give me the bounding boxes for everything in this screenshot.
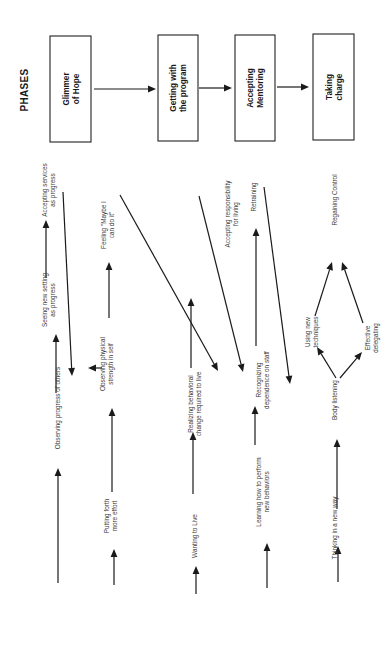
node-observing-progress: Observing progress of others bbox=[54, 367, 62, 449]
node-putting-forth: Putting forthmore effort bbox=[103, 498, 118, 533]
arrowhead-icon bbox=[188, 298, 195, 306]
connector-line bbox=[264, 187, 289, 376]
arrow-observing-to-feeling bbox=[106, 262, 113, 318]
phase-box-frame bbox=[50, 36, 91, 142]
node-using-techniques: Using newtechniques bbox=[304, 317, 320, 348]
arrow-putting-to-observing bbox=[109, 408, 116, 492]
arrow-start-row2 bbox=[111, 549, 118, 585]
connector-line bbox=[340, 358, 357, 378]
node-feeling-maybe: Feeling "Maybe Ican do it" bbox=[100, 201, 115, 249]
node-regaining-control: Regaining Control bbox=[331, 174, 339, 225]
arrow-accepting-to-taking bbox=[277, 84, 309, 91]
connector-line bbox=[120, 195, 214, 364]
arrowhead-icon bbox=[109, 408, 116, 416]
phase-box-accepting: AcceptingMentoring bbox=[235, 35, 275, 141]
arrow-learning-to-recognizing bbox=[252, 406, 259, 445]
node-body-listening: Body listening bbox=[331, 380, 339, 420]
phases-title: PHASES bbox=[19, 69, 30, 112]
phase-box-getting: Getting withthe program bbox=[158, 35, 198, 141]
node-accepting-services: Accepting servicesas progress bbox=[41, 163, 57, 216]
node-seeing-setting: Seeing new settingas progress bbox=[41, 273, 57, 327]
phase-label: Glimmerof Hope bbox=[62, 72, 81, 106]
arrow-getting-to-accepting bbox=[199, 85, 232, 92]
arrowhead-icon bbox=[88, 365, 96, 372]
node-learning-perform: Learning how to performnew behaviors bbox=[255, 457, 270, 526]
phase-label: AcceptingMentoring bbox=[246, 68, 265, 108]
phase-box-taking: Takingcharge bbox=[313, 34, 354, 140]
arrowhead-icon bbox=[43, 220, 50, 228]
phase-label: Getting withthe program bbox=[169, 64, 188, 112]
arrowhead-icon bbox=[252, 406, 259, 414]
phase-box-frame bbox=[158, 35, 198, 141]
phase-box-frame bbox=[313, 34, 354, 140]
arrow-body-to-delegating bbox=[340, 352, 362, 378]
node-observing-strength: Observing physicalstrength in self bbox=[99, 337, 115, 391]
arrow-using-to-regaining bbox=[315, 262, 333, 316]
node-thinking-new: Thinking in a new way bbox=[331, 496, 339, 560]
node-wanting-live: Wanting to Live bbox=[191, 514, 199, 558]
connector-line bbox=[63, 192, 72, 368]
arrow-seeing-to-accepting-services bbox=[43, 220, 50, 278]
arrowhead-icon bbox=[193, 566, 200, 574]
node-realizing-change: Realizing behavioralchange required to l… bbox=[187, 371, 203, 436]
node-accepting-responsibility: Accepting responsibilityfor living bbox=[224, 180, 240, 248]
arrowhead-icon bbox=[106, 262, 113, 270]
arrowhead-icon bbox=[148, 86, 156, 93]
arrowhead-icon bbox=[53, 334, 60, 342]
arrow-start-row3 bbox=[193, 566, 200, 594]
phase-label: Takingcharge bbox=[325, 73, 344, 100]
arrow-start-row1 bbox=[55, 468, 62, 583]
phase-box-glimmer: Glimmerof Hope bbox=[50, 36, 91, 142]
arrowhead-icon bbox=[111, 549, 118, 557]
connector-line bbox=[321, 354, 336, 378]
arrow-feeling-down bbox=[120, 195, 218, 371]
phase-box-frame bbox=[235, 35, 275, 141]
arrowhead-icon bbox=[238, 363, 245, 372]
arrowhead-icon bbox=[286, 376, 293, 384]
node-recognizing-dependence: Recognizingdependence on staff bbox=[255, 351, 271, 409]
arrow-wanting-to-realizing bbox=[190, 432, 197, 494]
arrowhead-icon bbox=[264, 543, 271, 551]
node-effective-delegating: Effectivedelegating bbox=[364, 323, 380, 353]
connector-line bbox=[345, 270, 363, 323]
arrow-body-to-using bbox=[317, 347, 336, 378]
arrowhead-icon bbox=[341, 262, 347, 271]
phases-diagram: Glimmerof HopeGetting withthe programAcc… bbox=[0, 0, 389, 660]
arrowhead-icon bbox=[224, 85, 232, 92]
connector-line bbox=[315, 270, 330, 316]
arrowhead-icon bbox=[55, 468, 62, 476]
arrow-accepting-services-down bbox=[63, 192, 75, 376]
arrowhead-icon bbox=[334, 439, 341, 447]
arrow-realizing-to-responsibility bbox=[188, 298, 195, 368]
arrowhead-icon bbox=[68, 368, 75, 376]
arrowhead-icon bbox=[253, 228, 260, 236]
arrow-recognizing-to-retraining bbox=[253, 228, 260, 346]
arrow-start-row4 bbox=[264, 543, 271, 588]
arrow-delegating-to-regaining bbox=[341, 262, 363, 323]
arrow-glimmer-to-getting bbox=[94, 86, 156, 93]
arrowhead-icon bbox=[326, 262, 332, 271]
node-retraining: Retraining bbox=[250, 182, 258, 212]
node-labels: Observing progress of othersSeeing new s… bbox=[41, 163, 380, 559]
arrowhead-icon bbox=[301, 84, 309, 91]
